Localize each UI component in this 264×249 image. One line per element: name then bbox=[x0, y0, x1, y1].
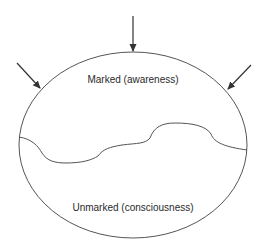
arrow-right-icon bbox=[228, 65, 251, 89]
marked-region-label: Marked (awareness) bbox=[87, 74, 178, 85]
arrow-left-icon bbox=[17, 63, 40, 88]
dividing-boundary bbox=[19, 123, 247, 163]
unmarked-region-label: Unmarked (consciousness) bbox=[72, 202, 193, 213]
